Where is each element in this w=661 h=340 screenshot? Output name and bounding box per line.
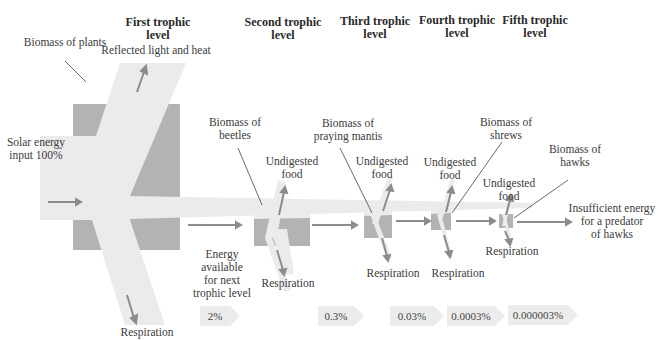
main-flow-band <box>128 196 532 219</box>
header-fifth-trophic: Fifth trophiclevel <box>495 14 575 40</box>
header-first-trophic: First trophiclevel <box>118 16 198 42</box>
solar-input-label: Solar energyinput 100% <box>6 136 66 162</box>
biomass-beetles-label: Biomass ofbeetles <box>205 116 265 142</box>
header-fourth-trophic: Fourth trophiclevel <box>417 14 497 40</box>
biomass-plants-label: Biomass of plants <box>20 36 110 49</box>
biomass-hawks-label: Biomass ofhawks <box>545 143 605 169</box>
undigested-hawks-label: Undigestedfood <box>479 177 539 203</box>
insufficient-energy-label: Insufficient energyfor a predatorof hawk… <box>562 202 661 241</box>
respiration-plants-label: Respiration <box>112 326 182 339</box>
undigested-shrews-label: Undigestedfood <box>420 156 480 182</box>
reflected-light-label: Reflected light and heat <box>96 44 216 57</box>
respiration-hawks-label: Respiration <box>482 245 542 258</box>
header-third-trophic: Third trophiclevel <box>335 15 415 41</box>
biomass-shrews-label: Biomass ofshrews <box>476 116 536 142</box>
undigested-mantis-label: Undigestedfood <box>352 155 412 181</box>
energy-available-label: Energyavailablefor nexttrophic level <box>190 248 254 300</box>
respiration-shrews-label: Respiration <box>428 267 488 280</box>
header-second-trophic: Second trophiclevel <box>238 16 328 42</box>
biomass-mantis-label: Biomass ofpraying mantis <box>308 117 388 143</box>
undigested-beetles-label: Undigestedfood <box>262 155 322 181</box>
respiration-mantis-label: Respiration <box>363 267 423 280</box>
respiration-beetles-label: Respiration <box>258 277 318 290</box>
